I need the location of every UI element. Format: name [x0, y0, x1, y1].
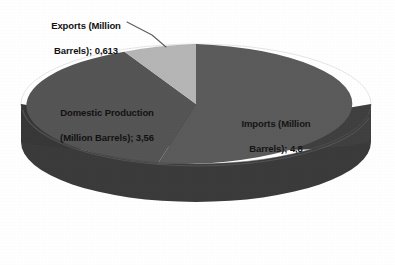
- pie-chart: Exports (Million Barrels); 0,613 Domesti…: [0, 0, 395, 265]
- pie-label-domestic-production-line1: Domestic Production: [60, 107, 154, 118]
- pie-label-imports-line2: Barrels); 4,8: [249, 143, 303, 154]
- pie-label-imports-line1: Imports (Million: [241, 118, 310, 129]
- pie-label-imports: Imports (Million Barrels); 4,8: [216, 106, 336, 155]
- pie-label-domestic-production: Domestic Production (Million Barrels); 3…: [34, 95, 180, 144]
- pie-label-domestic-production-line2: (Million Barrels); 3,56: [60, 132, 154, 143]
- pie-label-exports: Exports (Million Barrels); 0,613: [26, 8, 146, 57]
- pie-label-exports-line1: Exports (Million: [51, 20, 121, 31]
- pie-label-exports-line2: Barrels); 0,613: [54, 45, 118, 56]
